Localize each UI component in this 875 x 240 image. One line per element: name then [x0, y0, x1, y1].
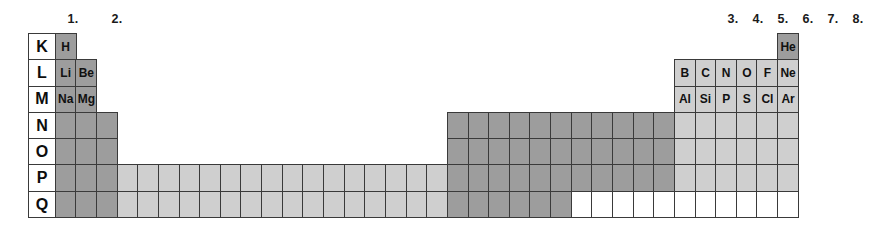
element-cell-p-31[interactable] — [674, 164, 696, 192]
element-cell-o-33[interactable] — [715, 138, 737, 166]
element-cell-p-17[interactable] — [385, 164, 407, 192]
element-cell-n-26[interactable] — [571, 112, 593, 140]
element-cell-q-6[interactable] — [158, 191, 180, 219]
element-cell-q-9[interactable] — [220, 191, 242, 219]
element-cell-ar[interactable]: Ar — [777, 86, 799, 114]
element-cell-p-33[interactable] — [715, 164, 737, 192]
element-cell-q-16[interactable] — [364, 191, 386, 219]
element-cell-b[interactable]: B — [674, 59, 696, 87]
element-cell-p-1[interactable] — [55, 164, 77, 192]
element-cell-o-35[interactable] — [756, 138, 778, 166]
element-cell-q-34[interactable] — [736, 191, 758, 219]
element-cell-c[interactable]: C — [695, 59, 717, 87]
element-cell-p-21[interactable] — [468, 164, 490, 192]
element-cell-o-36[interactable] — [777, 138, 799, 166]
element-cell-o-26[interactable] — [571, 138, 593, 166]
element-cell-o-23[interactable] — [509, 138, 531, 166]
element-cell-q-5[interactable] — [137, 191, 159, 219]
element-cell-p-24[interactable] — [529, 164, 551, 192]
element-cell-q-3[interactable] — [96, 191, 118, 219]
element-cell-q-1[interactable] — [55, 191, 77, 219]
element-cell-s[interactable]: S — [736, 86, 758, 114]
element-cell-q-36[interactable] — [777, 191, 799, 219]
element-cell-p-4[interactable] — [117, 164, 139, 192]
element-cell-q-7[interactable] — [179, 191, 201, 219]
element-cell-o-24[interactable] — [529, 138, 551, 166]
element-cell-p-11[interactable] — [261, 164, 283, 192]
element-cell-q-8[interactable] — [199, 191, 221, 219]
element-cell-q-11[interactable] — [261, 191, 283, 219]
element-cell-o-20[interactable] — [447, 138, 469, 166]
element-cell-n-1[interactable] — [55, 112, 77, 140]
element-cell-p-6[interactable] — [158, 164, 180, 192]
element-cell-q-10[interactable] — [240, 191, 262, 219]
element-cell-f[interactable]: F — [756, 59, 778, 87]
element-cell-p-9[interactable] — [220, 164, 242, 192]
element-cell-o-32[interactable] — [695, 138, 717, 166]
element-cell-p[interactable]: P — [715, 86, 737, 114]
element-cell-be[interactable]: Be — [75, 59, 97, 87]
element-cell-o-30[interactable] — [653, 138, 675, 166]
element-cell-he[interactable]: He — [777, 33, 799, 61]
element-cell-o-28[interactable] — [612, 138, 634, 166]
element-cell-q-31[interactable] — [674, 191, 696, 219]
element-cell-n-20[interactable] — [447, 112, 469, 140]
element-cell-q-32[interactable] — [695, 191, 717, 219]
element-cell-n-23[interactable] — [509, 112, 531, 140]
element-cell-n-29[interactable] — [633, 112, 655, 140]
element-cell-p-36[interactable] — [777, 164, 799, 192]
element-cell-p-34[interactable] — [736, 164, 758, 192]
element-cell-p-25[interactable] — [550, 164, 572, 192]
element-cell-p-14[interactable] — [323, 164, 345, 192]
element-cell-q-12[interactable] — [282, 191, 304, 219]
element-cell-h[interactable]: H — [55, 33, 77, 61]
element-cell-si[interactable]: Si — [695, 86, 717, 114]
element-cell-q-28[interactable] — [612, 191, 634, 219]
element-cell-q-19[interactable] — [426, 191, 448, 219]
element-cell-p-35[interactable] — [756, 164, 778, 192]
element-cell-p-30[interactable] — [653, 164, 675, 192]
element-cell-o[interactable]: O — [736, 59, 758, 87]
element-cell-p-2[interactable] — [75, 164, 97, 192]
element-cell-p-7[interactable] — [179, 164, 201, 192]
element-cell-p-13[interactable] — [302, 164, 324, 192]
element-cell-p-18[interactable] — [406, 164, 428, 192]
element-cell-q-30[interactable] — [653, 191, 675, 219]
element-cell-p-3[interactable] — [96, 164, 118, 192]
element-cell-q-23[interactable] — [509, 191, 531, 219]
element-cell-p-15[interactable] — [344, 164, 366, 192]
element-cell-q-29[interactable] — [633, 191, 655, 219]
element-cell-o-22[interactable] — [488, 138, 510, 166]
element-cell-n-24[interactable] — [529, 112, 551, 140]
element-cell-q-13[interactable] — [302, 191, 324, 219]
element-cell-p-8[interactable] — [199, 164, 221, 192]
element-cell-n-35[interactable] — [756, 112, 778, 140]
element-cell-cl[interactable]: Cl — [756, 86, 778, 114]
element-cell-q-17[interactable] — [385, 191, 407, 219]
element-cell-q-35[interactable] — [756, 191, 778, 219]
element-cell-na[interactable]: Na — [55, 86, 77, 114]
element-cell-n-34[interactable] — [736, 112, 758, 140]
element-cell-p-5[interactable] — [137, 164, 159, 192]
element-cell-ne[interactable]: Ne — [777, 59, 799, 87]
element-cell-p-26[interactable] — [571, 164, 593, 192]
element-cell-q-26[interactable] — [571, 191, 593, 219]
element-cell-p-32[interactable] — [695, 164, 717, 192]
element-cell-o-25[interactable] — [550, 138, 572, 166]
element-cell-q-25[interactable] — [550, 191, 572, 219]
element-cell-q-20[interactable] — [447, 191, 469, 219]
element-cell-o-29[interactable] — [633, 138, 655, 166]
element-cell-p-29[interactable] — [633, 164, 655, 192]
element-cell-q-4[interactable] — [117, 191, 139, 219]
element-cell-o-1[interactable] — [55, 138, 77, 166]
element-cell-p-20[interactable] — [447, 164, 469, 192]
element-cell-o-2[interactable] — [75, 138, 97, 166]
element-cell-li[interactable]: Li — [55, 59, 77, 87]
element-cell-q-21[interactable] — [468, 191, 490, 219]
element-cell-q-22[interactable] — [488, 191, 510, 219]
element-cell-n-32[interactable] — [695, 112, 717, 140]
element-cell-o-34[interactable] — [736, 138, 758, 166]
element-cell-p-28[interactable] — [612, 164, 634, 192]
element-cell-n-33[interactable] — [715, 112, 737, 140]
element-cell-p-12[interactable] — [282, 164, 304, 192]
